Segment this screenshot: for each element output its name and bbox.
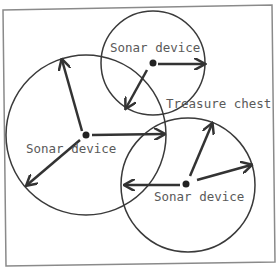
left-sonar-label: Sonar device [26, 141, 116, 156]
right-sonar-label: Sonar device [154, 189, 244, 204]
left-sonar-dot [83, 132, 90, 139]
top-sonar-label: Sonar device [110, 40, 200, 55]
right-sonar-dot [183, 181, 190, 188]
treasure-chest-label: Treasure chest [166, 96, 271, 111]
sonar-diagram: Sonar device Sonar device Sonar device T… [0, 0, 277, 267]
top-sonar-dot [150, 60, 157, 67]
